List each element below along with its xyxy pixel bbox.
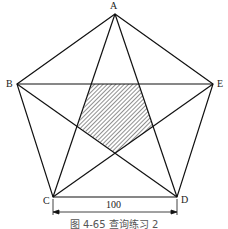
vertex-label-e: E	[217, 79, 223, 89]
figure-caption: 图 4-65 查询练习 2	[0, 216, 228, 229]
vertex-label-c: C	[43, 196, 50, 206]
pentagon-star-diagram	[0, 0, 228, 229]
vertex-label-d: D	[181, 195, 188, 205]
vertex-label-a: A	[110, 1, 117, 11]
vertex-label-b: B	[6, 79, 13, 89]
dimension-label: 100	[106, 200, 121, 210]
